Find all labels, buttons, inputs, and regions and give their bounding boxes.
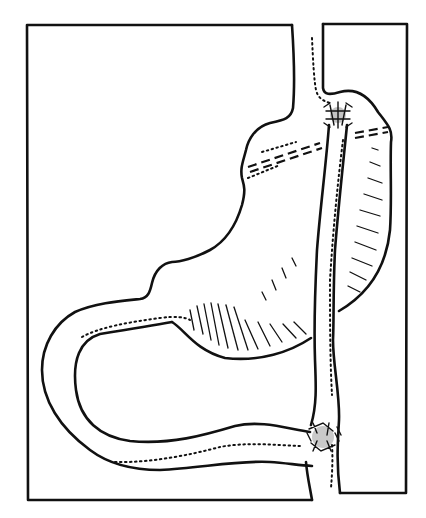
staple-line xyxy=(248,127,388,172)
lower-anastomosis xyxy=(307,423,341,451)
anatomy-diagram xyxy=(0,0,426,518)
stomach-hatching xyxy=(190,258,306,350)
stomach-drawing xyxy=(0,0,426,518)
staple-line-dots xyxy=(262,142,296,152)
fundus-hatching xyxy=(348,148,382,292)
bowel-loop-dots-lower xyxy=(115,444,300,462)
lower-channel-left xyxy=(306,462,312,500)
gastric-channel-left xyxy=(311,125,329,425)
left-esophagus-wall xyxy=(42,25,312,470)
